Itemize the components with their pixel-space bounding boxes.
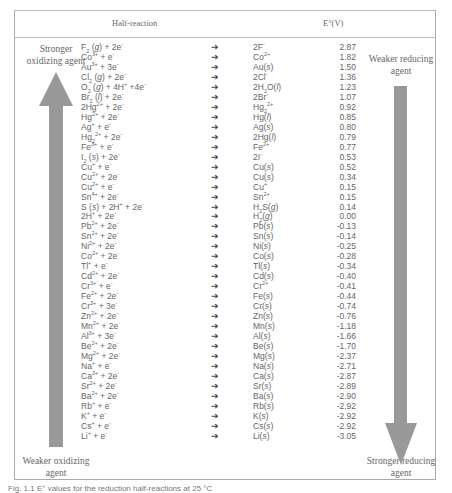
potential-value: 0.53	[320, 152, 356, 162]
reaction-arrow-icon: ➔	[211, 42, 219, 52]
potential-value: 1.36	[320, 72, 356, 82]
reactant: Hg22+ + 2e-	[81, 132, 122, 142]
product: Sn2+	[253, 192, 270, 202]
reaction-arrow-icon: ➔	[211, 192, 219, 202]
product: Ni(s)	[253, 241, 271, 251]
reaction-arrow-icon: ➔	[211, 341, 219, 351]
potential-value: -0.34	[320, 261, 356, 271]
reactant: 2H+ + 2e-	[81, 211, 116, 221]
label-line: agent	[356, 467, 446, 479]
potential-value: 0.80	[320, 122, 356, 132]
reaction-arrow-icon: ➔	[211, 391, 219, 401]
potential-value: 0.52	[320, 162, 356, 172]
arrow-down-icon	[385, 423, 417, 465]
reaction-arrow-icon: ➔	[211, 102, 219, 112]
reactant: Pb2+ + 2e-	[81, 221, 119, 231]
label-line: agent	[356, 65, 446, 77]
label-line: agent	[10, 467, 102, 479]
reactant: I2 (s) + 2e-	[81, 152, 120, 162]
reactant: Rb+ + e-	[81, 401, 111, 411]
potential-value: -2.92	[320, 421, 356, 431]
potential-value: -2.89	[320, 381, 356, 391]
product: Cu(s)	[253, 162, 274, 172]
table-frame	[14, 10, 436, 480]
potential-value: -0.41	[320, 281, 356, 291]
reaction-arrow-icon: ➔	[211, 142, 219, 152]
reaction-arrow-icon: ➔	[211, 291, 219, 301]
label-weaker-reducing: Weaker reducing agent	[356, 53, 446, 77]
reaction-arrow-icon: ➔	[211, 261, 219, 271]
product: Co2+	[253, 52, 270, 62]
potential-value: -2.87	[320, 371, 356, 381]
product: Cr(s)	[253, 301, 272, 311]
label-line: Weaker oxidizing	[10, 455, 102, 467]
reaction-arrow-icon: ➔	[211, 82, 219, 92]
reaction-arrow-icon: ➔	[211, 231, 219, 241]
product: Sn(s)	[253, 231, 273, 241]
potential-value: -0.40	[320, 271, 356, 281]
reactant: Cd2+ + 2e-	[81, 271, 119, 281]
reactant: Ca2+ + 2e-	[81, 371, 119, 381]
potential-value: 0.15	[320, 182, 356, 192]
potential-value: 1.23	[320, 82, 356, 92]
product: Li(s)	[253, 431, 270, 441]
reaction-arrow-icon: ➔	[211, 421, 219, 431]
potential-value: -3.05	[320, 431, 356, 441]
reaction-arrow-icon: ➔	[211, 52, 219, 62]
potential-value: 0.14	[320, 202, 356, 212]
product: Ca(s)	[253, 371, 274, 381]
reactant: O2 (g) + 4H+ +4e-	[81, 82, 146, 92]
potential-value: 1.07	[320, 92, 356, 102]
reactant: Li+ + e-	[81, 431, 107, 441]
reaction-arrow-icon: ➔	[211, 221, 219, 231]
reaction-arrow-icon: ➔	[211, 281, 219, 291]
reaction-arrow-icon: ➔	[211, 271, 219, 281]
reaction-arrow-icon: ➔	[211, 321, 219, 331]
potential-value: -1.18	[320, 321, 356, 331]
potential-value: -0.44	[320, 291, 356, 301]
reactant: Sr2+ + 2e-	[81, 381, 117, 391]
potential-value: 0.79	[320, 132, 356, 142]
potential-value: 1.50	[320, 62, 356, 72]
reaction-arrow-icon: ➔	[211, 251, 219, 261]
potential-value: -0.76	[320, 311, 356, 321]
potential-value: -0.28	[320, 251, 356, 261]
potential-value: 0.15	[320, 192, 356, 202]
reaction-arrow-icon: ➔	[211, 401, 219, 411]
reaction-arrow-icon: ➔	[211, 62, 219, 72]
potential-value: -2.92	[320, 401, 356, 411]
arrow-down-shaft	[394, 86, 407, 424]
product: K(s)	[253, 411, 269, 421]
product: 2Cl-	[253, 72, 268, 82]
product: Mn(s)	[253, 321, 275, 331]
reactant: Au3+ + 3e-	[81, 62, 119, 72]
reactant: Sn4+ + 2e-	[81, 192, 119, 202]
reactant: Zn2+ + 2e-	[81, 311, 118, 321]
reaction-arrow-icon: ➔	[211, 112, 219, 122]
reaction-arrow-icon: ➔	[211, 72, 219, 82]
reaction-arrow-icon: ➔	[211, 371, 219, 381]
potential-value: -2.71	[320, 361, 356, 371]
potential-value: -0.13	[320, 221, 356, 231]
product: Hg(l)	[253, 112, 271, 122]
product: Cs(s)	[253, 421, 273, 431]
reactant: Sn2+ + 2e-	[81, 231, 119, 241]
reactant: Mg2+ + 2e-	[81, 351, 120, 361]
potential-value: 0.34	[320, 172, 356, 182]
reactant: Al3+ + 3e-	[81, 331, 116, 341]
product: Hg22+	[253, 102, 273, 112]
reaction-arrow-icon: ➔	[211, 361, 219, 371]
product: Al(s)	[253, 331, 270, 341]
reaction-arrow-icon: ➔	[211, 122, 219, 132]
reactant: Be2+ + 2e-	[81, 341, 119, 351]
reaction-arrow-icon: ➔	[211, 92, 219, 102]
product: 2I-	[253, 152, 262, 162]
reaction-arrow-icon: ➔	[211, 351, 219, 361]
product: Mg(s)	[253, 351, 275, 361]
potential-value: -1.66	[320, 331, 356, 341]
potential-value: 0.00	[320, 211, 356, 221]
reaction-arrow-icon: ➔	[211, 311, 219, 321]
reaction-arrow-icon: ➔	[211, 431, 219, 441]
reaction-arrow-icon: ➔	[211, 411, 219, 421]
reaction-arrow-icon: ➔	[211, 162, 219, 172]
